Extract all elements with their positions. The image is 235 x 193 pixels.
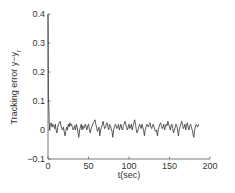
x-tick-label: 150 xyxy=(162,161,177,171)
x-tick-label: 50 xyxy=(83,161,93,171)
y-tick-label: 0.1 xyxy=(32,96,45,106)
tracking-error-chart: −0.100.10.20.30.4 050100150200 t(sec) Tr… xyxy=(0,0,235,193)
y-tick-label: 0.4 xyxy=(32,9,45,19)
y-tick-label: 0.2 xyxy=(32,67,45,77)
y-axis-label: Tracking error y−yr xyxy=(9,49,22,124)
data-line xyxy=(48,14,199,137)
y-tick-label: −0.1 xyxy=(27,154,45,164)
x-tick-label: 0 xyxy=(45,161,50,171)
y-axis: −0.100.10.20.30.4 xyxy=(27,9,50,164)
x-axis: 050100150200 xyxy=(45,157,217,172)
x-tick-label: 200 xyxy=(202,161,217,171)
x-axis-label: t(sec) xyxy=(118,170,141,180)
y-tick-label: 0.3 xyxy=(32,38,45,48)
y-tick-label: 0 xyxy=(40,125,45,135)
